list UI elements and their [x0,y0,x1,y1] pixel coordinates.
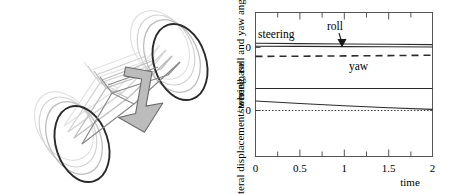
ytick-upper-zero: 0 [246,41,252,53]
annotation-roll: roll [327,20,343,32]
bicycle-svg [0,0,222,194]
bottom-axis-ticks [256,150,433,157]
series-roll [256,46,433,47]
series-yaw [256,55,433,56]
yaxis-label-lower: lateral displacement/ wheelbase [234,62,246,194]
annotation-steering: steering [258,28,295,41]
roll-pointer-arrow [338,33,347,48]
xaxis-label: time [400,176,420,188]
chart-panel: steering roll yaw 0 0 0 0.5 1 1.5 2 time… [222,0,450,194]
ytick-lower-zero: 0 [246,104,252,116]
xtick-0: 0 [253,162,259,174]
series-lateral-declining [256,101,433,109]
xtick-0.5: 0.5 [293,162,307,174]
bicycle-illustration-panel [0,0,222,194]
figure-root: steering roll yaw 0 0 0 0.5 1 1.5 2 time… [0,0,450,194]
annotation-yaw: yaw [349,60,369,73]
xtick-2: 2 [430,162,436,174]
xtick-1: 1 [342,162,348,174]
timeseries-chart: steering roll yaw 0 0 0 0.5 1 1.5 2 time… [222,0,450,194]
xtick-1.5: 1.5 [382,162,396,174]
top-axis-ticks [256,13,433,20]
